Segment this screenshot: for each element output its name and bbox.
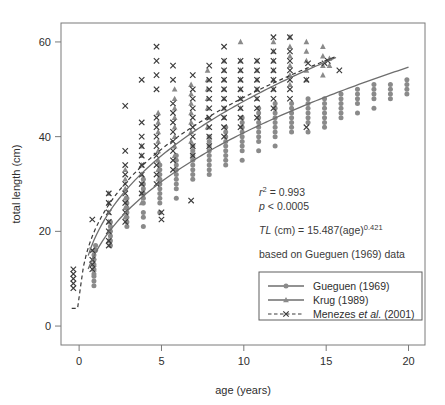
legend-label: Krug (1989) xyxy=(313,294,368,306)
y-tick-label: 20 xyxy=(39,225,51,237)
data-point-circle xyxy=(371,106,376,111)
data-point-circle xyxy=(388,82,393,87)
data-point-circle xyxy=(322,106,327,111)
r-squared-superscript: 2 xyxy=(263,185,267,194)
equation-body: (cm) = 15.487(age) xyxy=(271,224,364,236)
data-point-circle xyxy=(388,92,393,97)
data-point-circle xyxy=(223,158,228,163)
data-point-circle xyxy=(207,172,212,177)
data-point-circle xyxy=(371,92,376,97)
equation-exponent: 0.421 xyxy=(364,223,383,232)
data-point-circle xyxy=(157,191,162,196)
data-point-circle xyxy=(339,101,344,106)
data-point-circle xyxy=(240,158,245,163)
data-point-circle xyxy=(355,101,360,106)
data-point-circle xyxy=(223,129,228,134)
data-point-circle xyxy=(339,110,344,115)
data-point-circle xyxy=(207,139,212,144)
equation-symbol: TL xyxy=(259,224,271,236)
data-point-circle xyxy=(404,87,409,92)
data-point-circle xyxy=(289,101,294,106)
legend-label-head: Menezes xyxy=(313,308,359,320)
chart-legend[interactable]: Gueguen (1969)Krug (1989)Menezes et al. … xyxy=(259,272,422,320)
data-point-circle xyxy=(404,77,409,82)
data-point-circle xyxy=(190,172,195,177)
y-tick-label: 40 xyxy=(39,131,51,143)
data-point-circle xyxy=(174,186,179,191)
data-point-circle xyxy=(339,96,344,101)
data-point-circle xyxy=(91,271,96,276)
data-point-circle xyxy=(207,153,212,158)
legend-label-tail: (2001) xyxy=(381,308,414,320)
r-squared-value: = 0.993 xyxy=(270,186,305,198)
y-axis-title: total length (cm) xyxy=(10,145,22,224)
data-point-circle xyxy=(273,125,278,130)
data-point-circle xyxy=(256,148,261,153)
data-point-circle xyxy=(273,101,278,106)
data-point-circle xyxy=(306,129,311,134)
data-point-circle xyxy=(273,110,278,115)
data-point-circle xyxy=(339,106,344,111)
x-axis-title: age (years) xyxy=(215,384,271,396)
data-point-circle xyxy=(124,224,129,229)
data-point-circle xyxy=(404,92,409,97)
data-point-circle xyxy=(322,125,327,130)
data-point-circle xyxy=(388,96,393,101)
data-point-circle xyxy=(174,177,179,182)
data-point-circle xyxy=(355,87,360,92)
data-point-circle xyxy=(91,279,96,284)
data-point-circle xyxy=(174,163,179,168)
x-tick-label: 15 xyxy=(320,355,332,367)
data-point-circle xyxy=(355,92,360,97)
data-point-circle xyxy=(190,167,195,172)
legend-label: Menezes et al. (2001) xyxy=(313,308,415,320)
x-tick-label: 10 xyxy=(238,355,250,367)
data-point-circle xyxy=(322,110,327,115)
data-point-circle xyxy=(371,87,376,92)
source-note: based on Gueguen (1969) data xyxy=(259,248,405,260)
x-tick-label: 5 xyxy=(158,355,164,367)
figure-container: 0204060 05101520 age (years) total lengt… xyxy=(0,0,445,405)
data-point-circle xyxy=(355,96,360,101)
data-point-circle xyxy=(240,120,245,125)
data-point-circle xyxy=(256,134,261,139)
data-point-circle xyxy=(289,125,294,130)
data-point-circle xyxy=(141,186,146,191)
data-point-circle xyxy=(207,158,212,163)
data-point-circle xyxy=(141,177,146,182)
data-point-circle xyxy=(91,283,96,288)
scatter-chart: 0204060 05101520 age (years) total lengt… xyxy=(0,0,445,405)
x-tick-label: 0 xyxy=(76,355,82,367)
data-point-circle xyxy=(306,115,311,120)
p-value: < 0.0005 xyxy=(268,200,309,212)
data-point-circle xyxy=(157,196,162,201)
data-point-circle xyxy=(355,110,360,115)
data-point-circle xyxy=(190,148,195,153)
data-point-circle xyxy=(157,200,162,205)
data-point-circle xyxy=(289,120,294,125)
data-point-circle xyxy=(207,167,212,172)
data-point-circle xyxy=(284,284,289,289)
data-point-circle xyxy=(306,106,311,111)
data-point-circle xyxy=(289,115,294,120)
data-point-circle xyxy=(371,96,376,101)
data-point-circle xyxy=(240,148,245,153)
data-point-circle xyxy=(388,87,393,92)
data-point-circle xyxy=(141,210,146,215)
data-point-circle xyxy=(157,186,162,191)
data-point-circle xyxy=(108,234,113,239)
x-tick-label: 20 xyxy=(402,355,414,367)
data-point-circle xyxy=(273,129,278,134)
data-point-circle xyxy=(240,139,245,144)
data-point-circle xyxy=(256,129,261,134)
data-point-circle xyxy=(207,163,212,168)
data-point-circle xyxy=(223,148,228,153)
data-point-circle xyxy=(190,177,195,182)
p-symbol: p xyxy=(258,200,265,212)
data-point-circle xyxy=(289,129,294,134)
data-point-circle xyxy=(404,82,409,87)
y-tick-label: 0 xyxy=(45,320,51,332)
data-point-circle xyxy=(371,82,376,87)
y-tick-label: 60 xyxy=(39,36,51,48)
data-point-circle xyxy=(306,120,311,125)
